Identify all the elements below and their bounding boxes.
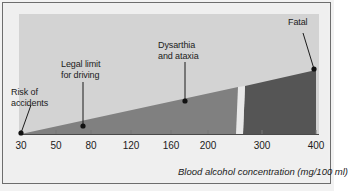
x-tick-label-50: 50 bbox=[50, 140, 61, 151]
marker-dot-risk-of-accidents bbox=[18, 130, 23, 135]
x-tick-label-80: 80 bbox=[85, 140, 96, 151]
marker-dot-dysarthia bbox=[182, 98, 187, 103]
x-tick-label-160: 160 bbox=[163, 140, 180, 151]
x-tick-label-200: 200 bbox=[200, 140, 217, 151]
x-tick-label-400: 400 bbox=[308, 140, 325, 151]
annotation-legal-limit-for-driving: Legal limit for driving bbox=[61, 59, 100, 80]
x-tick-label-30: 30 bbox=[15, 140, 26, 151]
marker-dot-legal-limit bbox=[80, 123, 85, 128]
x-axis-title: Blood alcohol concentration (mg/100 ml) bbox=[178, 166, 348, 177]
annotation-dysarthia-and-ataxia: Dysarthia and ataxia bbox=[158, 40, 199, 61]
marker-dot-fatal bbox=[311, 66, 316, 71]
x-tick-label-120: 120 bbox=[123, 140, 140, 151]
annotation-fatal: Fatal bbox=[288, 17, 308, 28]
annotation-risk-of-accidents: Risk of accidents bbox=[11, 87, 48, 108]
x-tick-label-300: 300 bbox=[254, 140, 271, 151]
